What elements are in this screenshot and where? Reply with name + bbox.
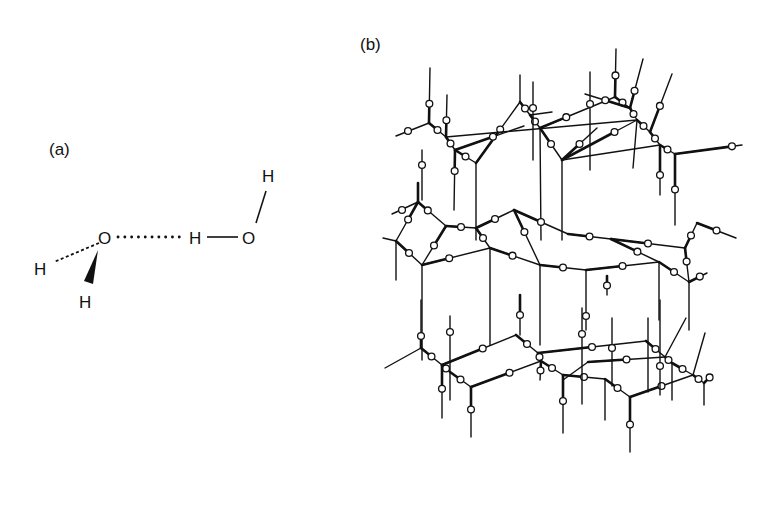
hydrogen-atom [612,72,619,79]
bond [665,318,686,357]
hydrogen-atom [405,128,412,135]
hydrogen-atom [443,365,450,372]
bond [471,373,510,387]
bond [675,146,732,154]
hydrogen-atom [522,105,529,112]
atom-hydrogen: H [189,229,201,248]
hydrogen-atom [451,168,458,175]
atom-oxygen: O [98,229,111,248]
hydrogen-atom [611,129,618,136]
hydrogen-atom [446,255,453,262]
hydrogen-atom [524,341,531,348]
hydrogen-atom [418,333,425,340]
hydrogen-atom [530,105,537,112]
hydrogen-atom [619,263,626,270]
hydrogen-atom [586,233,593,240]
hydrogen-atom [652,346,659,353]
hydrogen-atom [462,153,469,160]
hydrogen-atom [729,143,736,150]
hydrogen-atom [706,374,713,381]
hydrogen-atom [560,398,567,405]
hydrogen-atom [490,133,497,140]
hydrogen-atom [406,250,413,257]
hydrogen-atom [583,313,590,320]
hydrogen-atom [492,216,499,223]
dashed-bond [54,243,99,262]
hydrogen-atom [537,367,544,374]
bond [396,123,429,136]
hydrogen-atom [640,123,647,130]
hydrogen-atom [549,365,556,372]
hydrogen-atom [457,376,464,383]
hydrogen-atom [688,232,695,239]
panel-a-label: (a) [49,140,70,159]
hydrogen-atom [521,229,528,236]
hydrogen-atom [696,273,703,280]
hydrogen-atom [405,216,412,223]
hydrogen-atom [447,329,454,336]
hydrogen-atom [645,240,652,247]
hydrogen-atom [679,366,686,373]
hydrogen-atom [468,406,475,413]
hydrogen-atom [602,97,609,104]
hydrogen-atom [548,141,555,148]
atom-hydrogen: H [34,260,46,279]
hydrogen-atom [506,369,513,376]
hydrogen-atom [658,383,665,390]
figure: (a) O H H H O H (b) [0,0,761,506]
wedge-bond [84,250,98,284]
hydrogen-atom [424,207,431,214]
atom-oxygen: O [242,229,255,248]
hydrogen-atom [479,345,486,352]
hydrogen-atom [587,101,594,108]
hydrogen-atom [631,87,638,94]
hydrogen-atom [657,172,664,179]
hydrogen-atom [426,100,433,107]
bond [630,386,662,397]
hydrogen-atom [627,421,634,428]
hydrogen-atom [664,146,671,153]
bond [538,347,592,353]
hydrogen-atom [428,353,435,360]
bond [633,120,637,168]
hydrogen-atom [563,114,570,121]
hydrogen-atom [560,264,567,271]
panel-a: (a) O H H H O H [34,140,274,312]
hydrogen-atom [630,111,637,118]
hydrogen-atom [538,219,545,226]
hydrogen-atom [399,207,406,214]
hydrogen-atom [480,235,487,242]
bond [385,348,421,368]
hydrogen-atom [589,344,596,351]
bond [442,349,483,366]
hydrogen-atom [672,186,679,193]
atom-hydrogen: H [262,167,274,186]
hydrogen-atom [576,141,583,148]
hydrogen-atom [713,227,720,234]
hydrogen-atom [657,103,664,110]
covalent-bond [256,191,266,223]
atom-hydrogen: H [79,293,91,312]
hydrogen-atom [614,385,621,392]
hydrogen-atom [419,162,426,169]
hydrogen-atom [431,242,438,249]
bond [588,360,627,363]
hydrogen-atom [517,312,524,319]
hydrogen-atom [609,345,616,352]
hydrogen-atom [634,248,641,255]
hydrogen-atom [536,354,543,361]
bond [650,106,660,132]
hydrogen-atom [443,117,450,124]
bond [586,266,623,270]
panel-b: (b) [360,35,742,452]
hydrogen-atom [652,135,659,142]
hydrogen-atom [434,127,441,134]
hydrogen-atom [447,140,454,147]
bond [383,238,396,241]
hydrogen-atom [657,363,664,370]
hydrogen-atom [509,252,516,259]
hydrogen-atom [458,224,465,231]
hydrogen-atom [579,331,586,338]
panel-b-label: (b) [360,35,381,54]
hydrogen-atom [604,282,611,289]
